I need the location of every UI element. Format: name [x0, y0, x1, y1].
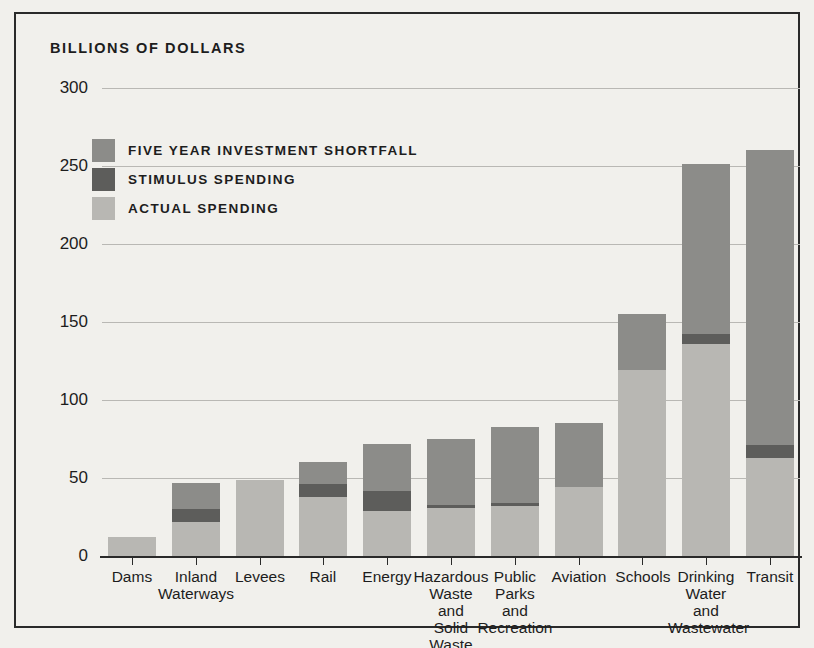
bar-segment-stimulus-spending [172, 509, 220, 521]
bar-segment-stimulus-spending [299, 484, 347, 496]
bar-segment-actual-spending [491, 506, 539, 556]
bar-segment-actual-spending [746, 458, 794, 556]
x-axis-tick [387, 558, 388, 565]
x-axis-tick [706, 558, 707, 565]
x-axis-tick [323, 558, 324, 565]
x-axis-tick [260, 558, 261, 565]
x-axis-label-line: Parks [477, 585, 553, 602]
y-axis-tick-label: 200 [60, 234, 88, 254]
bar-segment-stimulus-spending [746, 445, 794, 457]
bar-segment-actual-spending [108, 537, 156, 556]
bar-segment-stimulus-spending [363, 491, 411, 511]
x-axis-tick [451, 558, 452, 565]
x-axis-label-line: and [477, 602, 553, 619]
y-axis-tick-label: 250 [60, 156, 88, 176]
x-axis-tick [196, 558, 197, 565]
bar-segment-investment-shortfall [427, 439, 475, 505]
bar-dams[interactable] [108, 14, 156, 556]
bar-segment-actual-spending [236, 480, 284, 556]
x-axis-label-line: Wastewater [668, 619, 744, 636]
chart-frame: BILLIONS OF DOLLARS 050100150200250300 F… [14, 12, 800, 628]
bar-segment-investment-shortfall [618, 314, 666, 370]
x-axis-tick [515, 558, 516, 565]
bar-segment-actual-spending [618, 370, 666, 556]
bar-segment-actual-spending [299, 497, 347, 556]
chart-page: BILLIONS OF DOLLARS 050100150200250300 F… [0, 0, 814, 648]
x-axis-tick [770, 558, 771, 565]
x-axis-label-line: Waterways [158, 585, 234, 602]
x-axis-label-line: Transit [732, 568, 808, 585]
x-axis-label-line: Waste [413, 636, 489, 648]
x-axis-tick [132, 558, 133, 565]
x-axis-tick [642, 558, 643, 565]
y-axis-tick-label: 300 [60, 78, 88, 98]
y-axis-tick-label: 0 [79, 546, 88, 566]
bar-segment-actual-spending [363, 511, 411, 556]
bar-energy[interactable] [427, 14, 475, 556]
bar-drinking-water-and-wastewater[interactable] [682, 14, 730, 556]
bar-segment-stimulus-spending [682, 334, 730, 343]
bar-segment-investment-shortfall [746, 150, 794, 445]
x-axis-label-transit: Transit [732, 568, 808, 585]
bar-aviation[interactable] [555, 14, 603, 556]
x-axis-label-line: and [668, 602, 744, 619]
y-axis-tick-label: 150 [60, 312, 88, 332]
bar-inland-waterways[interactable] [172, 14, 220, 556]
bar-segment-actual-spending [555, 487, 603, 556]
y-axis-tick-label: 100 [60, 390, 88, 410]
bar-hazardous-waste-and-solid-waste[interactable] [363, 14, 411, 556]
y-axis-tick-label: 50 [69, 468, 88, 488]
bar-schools[interactable] [618, 14, 666, 556]
bar-segment-investment-shortfall [491, 427, 539, 503]
bar-public-parks-and-recreation[interactable] [491, 14, 539, 556]
bar-rail[interactable] [299, 14, 347, 556]
bar-segment-investment-shortfall [555, 423, 603, 487]
bar-segment-investment-shortfall [363, 444, 411, 491]
bar-segment-actual-spending [427, 508, 475, 556]
x-axis-label-line: Recreation [477, 619, 553, 636]
bar-transit[interactable] [746, 14, 794, 556]
x-axis-tick [579, 558, 580, 565]
bar-segment-actual-spending [172, 522, 220, 556]
bar-segment-actual-spending [682, 344, 730, 556]
bar-levees[interactable] [236, 14, 284, 556]
bar-segment-investment-shortfall [172, 483, 220, 510]
bar-segment-investment-shortfall [299, 462, 347, 484]
x-axis-label-line: Water [668, 585, 744, 602]
bar-segment-investment-shortfall [682, 164, 730, 334]
